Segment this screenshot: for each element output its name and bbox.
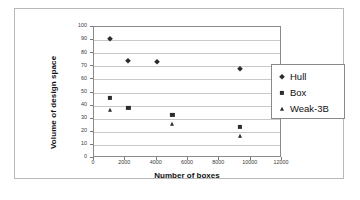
gridline	[94, 40, 280, 41]
data-point-hull	[154, 59, 160, 65]
y-axis-label: Volume of design space	[49, 56, 58, 149]
y-tick-label: 100	[61, 23, 87, 28]
x-tick-mark	[250, 157, 251, 160]
legend-label: Hull	[290, 72, 306, 82]
gridline	[94, 53, 280, 54]
y-tick-label: 10	[61, 141, 87, 146]
y-tick-label: 0	[61, 154, 87, 159]
chart-legend: HullBoxWeak-3B	[271, 64, 345, 119]
y-tick-label: 40	[61, 102, 87, 107]
data-point-box	[170, 113, 174, 117]
gridline	[94, 119, 280, 120]
legend-label: Weak-3B	[290, 104, 329, 114]
legend-item-hull[interactable]: Hull	[277, 69, 344, 85]
legend-item-weak-3b[interactable]: Weak-3B	[277, 101, 344, 117]
y-tick-label: 90	[61, 36, 87, 41]
triangle-marker-icon	[277, 104, 287, 114]
x-axis-label: Number of boxes	[93, 171, 281, 180]
data-point-hull	[125, 58, 131, 64]
x-tick-mark	[156, 157, 157, 160]
data-point-weak-3b	[238, 134, 242, 138]
gridline	[94, 145, 280, 146]
y-tick-label: 80	[61, 50, 87, 55]
legend-label: Box	[290, 88, 306, 98]
gridline	[94, 132, 280, 133]
gridline	[94, 106, 280, 107]
y-tick-label: 70	[61, 63, 87, 68]
x-tick-mark	[218, 157, 219, 160]
gridline	[94, 93, 280, 94]
y-tick-label: 50	[61, 89, 87, 94]
y-tick-label: 30	[61, 115, 87, 120]
square-marker-icon	[277, 88, 287, 98]
diamond-marker-icon	[277, 72, 287, 82]
legend-item-box[interactable]: Box	[277, 85, 344, 101]
chart-frame: Volume of design space 01020304050607080…	[14, 8, 344, 179]
x-tick-mark	[281, 157, 282, 160]
y-tick-label: 60	[61, 76, 87, 81]
gridline	[94, 66, 280, 67]
data-point-weak-3b	[108, 107, 112, 111]
x-tick-mark	[124, 157, 125, 160]
plot-area	[93, 26, 281, 157]
x-tick-mark	[187, 157, 188, 160]
gridline	[94, 79, 280, 80]
data-point-box	[126, 106, 130, 110]
x-tick-mark	[93, 157, 94, 160]
y-tick-label: 20	[61, 128, 87, 133]
data-point-box	[238, 124, 242, 128]
data-point-weak-3b	[170, 122, 174, 126]
data-point-box	[108, 96, 112, 100]
x-tick-label: 12000	[261, 160, 301, 165]
